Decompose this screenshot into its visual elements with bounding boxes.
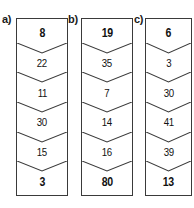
chevron-divider-icon [146,132,191,143]
stack-cell-value: 11 [37,88,46,99]
stack-cell-value: 14 [102,117,112,128]
stack-cell-value: 19 [101,28,112,39]
chevron-divider-icon [17,102,67,113]
chevron-divider-icon [146,161,191,172]
stack-cell-value: 35 [102,58,112,69]
stack-cell-value: 80 [101,177,112,188]
chevron-divider-icon [17,43,67,54]
stack-cell: 8 [17,19,67,49]
chevron-divider-icon [82,102,132,113]
chevron-divider-icon [146,43,191,54]
stack-cell-value: 39 [163,147,173,158]
stack-cell-value: 3 [39,177,45,188]
column-label: b) [68,14,78,25]
chevron-divider-icon [82,161,132,172]
stack-cell-value: 15 [37,147,47,158]
stack-cell-value: 30 [37,117,47,128]
chevron-stack-box: 19357141680 [81,18,133,196]
stack-cell-value: 13 [163,177,174,188]
stack-cell-value: 22 [37,58,47,69]
stack-cell: 6 [146,19,191,49]
stack-cell-value: 41 [163,117,173,128]
chevron-divider-icon [146,72,191,83]
column-label: a) [2,14,11,25]
chevron-divider-icon [17,72,67,83]
chevron-divider-icon [146,102,191,113]
chevron-stack-diagram: a)8221130153b)19357141680c)6330413913 [0,0,194,208]
stack-cell-value: 16 [102,147,112,158]
stack-cell-value: 3 [166,58,171,69]
chevron-divider-icon [82,72,132,83]
stack-cell-value: 30 [163,88,173,99]
stack-cell-value: 6 [166,28,172,39]
stack-cell: 19 [82,19,132,49]
stack-cell-value: 8 [39,28,45,39]
column-label: c) [134,14,143,25]
chevron-divider-icon [17,161,67,172]
stack-cell-value: 7 [104,88,109,99]
chevron-stack-box: 8221130153 [16,18,68,196]
chevron-divider-icon [82,132,132,143]
chevron-divider-icon [17,132,67,143]
chevron-divider-icon [82,43,132,54]
chevron-stack-box: 6330413913 [145,18,192,196]
